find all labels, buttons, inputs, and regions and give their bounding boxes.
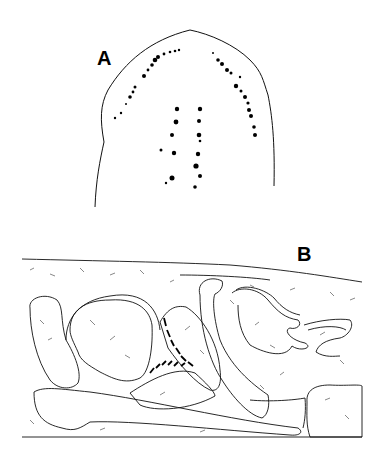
figure-drawing — [0, 0, 386, 454]
panel-a-eyespots — [114, 49, 257, 189]
panel-b-hatching — [150, 318, 193, 373]
panel-a-outline — [95, 30, 274, 207]
panel-b-section — [22, 259, 362, 437]
panel-b-stipple — [30, 268, 355, 432]
